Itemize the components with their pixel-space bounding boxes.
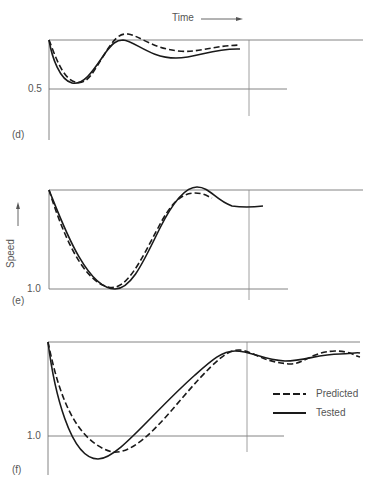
tested-curve-d [49,40,240,83]
time-arrow-icon [201,17,243,21]
predicted-curve-d [49,34,240,83]
legend-predicted-label: Predicted [316,389,358,399]
x-axis-label: Time [172,13,194,23]
ref-value-f: 1.0 [27,431,41,441]
legend-tested-label: Tested [316,408,345,418]
tested-curve-f [48,342,360,459]
ref-value-e: 1.0 [27,284,41,294]
speed-arrow-icon [16,202,20,226]
panel-label-f: (f) [12,465,21,475]
legend [273,394,306,413]
panel-d [49,34,363,140]
ref-value-d: 0.5 [28,84,42,94]
tested-curve-e [49,187,263,289]
panel-label-e: (e) [12,296,24,306]
predicted-curve-e [49,190,212,288]
panel-f [48,342,360,475]
panel-label-d: (d) [12,130,24,140]
panel-e [49,187,363,300]
y-axis-label: Speed [6,239,16,268]
